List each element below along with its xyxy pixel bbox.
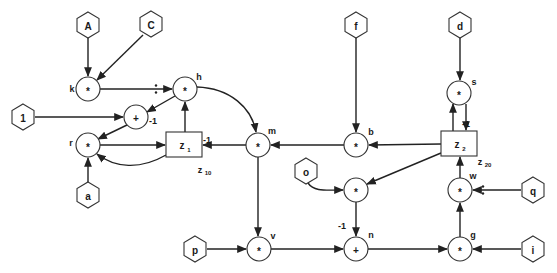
edge-C-k <box>97 35 143 80</box>
input-node-o: o <box>295 158 317 184</box>
gain-annotation: -1 <box>149 116 157 126</box>
node-name-label: v <box>270 231 275 241</box>
input-label: q <box>530 186 536 197</box>
node-name-label: s <box>471 77 476 87</box>
operator-node-r: *r <box>69 133 100 157</box>
node-name-label: r <box>69 138 73 148</box>
delay-label: z <box>455 139 460 150</box>
node-name-label: h <box>196 72 202 82</box>
delay-label: z <box>180 140 185 151</box>
edge-z2-mid <box>367 153 441 184</box>
operator-symbol: + <box>353 245 359 256</box>
operator-symbol: * <box>458 246 462 257</box>
input-node-f: f <box>345 12 367 38</box>
operator-symbol: * <box>257 246 261 257</box>
node-name-label: w <box>468 171 477 181</box>
operator-node-w: *w <box>448 171 477 202</box>
operator-symbol: * <box>86 142 90 153</box>
delay-tag-subscript: 10 <box>205 170 212 176</box>
input-label: d <box>457 21 463 32</box>
operator-symbol: * <box>354 187 358 198</box>
gain-annotation: -1 <box>203 135 211 145</box>
operator-symbol: * <box>256 142 260 153</box>
node-name-label: n <box>368 230 374 240</box>
annotations: -1-1-1-1 <box>149 84 484 231</box>
input-label: C <box>147 20 154 31</box>
operator-symbol: * <box>183 86 187 97</box>
node-name-label: k <box>69 84 75 94</box>
input-node-q: q <box>522 177 544 203</box>
delay-tag: z <box>198 165 203 175</box>
operator-node-n: +n <box>344 230 374 261</box>
operator-node-s: *s <box>447 77 477 105</box>
node-name-label: m <box>268 126 276 136</box>
operator-symbol: + <box>133 113 139 124</box>
input-label: p <box>192 245 198 256</box>
operator-node-g: *g <box>448 230 476 261</box>
input-node-C: C <box>140 11 162 37</box>
input-node-d: d <box>449 12 471 38</box>
operator-symbol: * <box>457 90 461 101</box>
input-label: A <box>84 21 91 32</box>
operator-symbol: * <box>458 187 462 198</box>
edge-z1-r <box>97 154 166 165</box>
delay-block-z2: z2z20 <box>441 131 492 168</box>
input-node-A: A <box>77 12 99 38</box>
delay-tag-subscript: 20 <box>485 162 492 168</box>
edge-h-m <box>197 87 256 132</box>
operator-node-plus1: + <box>124 105 148 129</box>
edge-o-mid <box>308 183 343 190</box>
operator-node-v: *v <box>247 231 276 261</box>
node-name-label: g <box>470 230 476 240</box>
input-node-i: i <box>522 236 544 262</box>
gain-annotation: -1 <box>338 221 346 231</box>
input-label: o <box>303 167 309 178</box>
input-node-p: p <box>184 236 206 262</box>
operator-node-b: *b <box>344 127 374 157</box>
edge-z2-b <box>369 144 441 145</box>
input-label: i <box>532 245 535 256</box>
operator-node-k: *k <box>69 77 100 101</box>
operator-symbol: * <box>86 86 90 97</box>
node-name-label: b <box>368 127 374 137</box>
operator-node-m: *m <box>246 126 276 157</box>
delay-tag: z <box>478 157 483 167</box>
input-node-a: a <box>77 182 99 208</box>
edge-plus-r <box>98 125 127 139</box>
operator-node-mid: * <box>344 178 368 202</box>
input-node-one: 1 <box>12 104 34 130</box>
operator-symbol: * <box>354 142 358 153</box>
input-label: a <box>85 191 91 202</box>
delay-blocks: z1z10z2z20 <box>166 131 492 176</box>
edge-h-plus <box>147 96 175 112</box>
operator-nodes: *k*h+*r*m*b*s**w*v+n*g <box>69 72 477 261</box>
signal-flow-diagram: AC1afdoqpi *k*h+*r*m*b*s**w*v+n*g z1z10z… <box>0 0 557 273</box>
input-label: 1 <box>20 113 26 124</box>
gain-annotation: -1 <box>462 119 470 129</box>
